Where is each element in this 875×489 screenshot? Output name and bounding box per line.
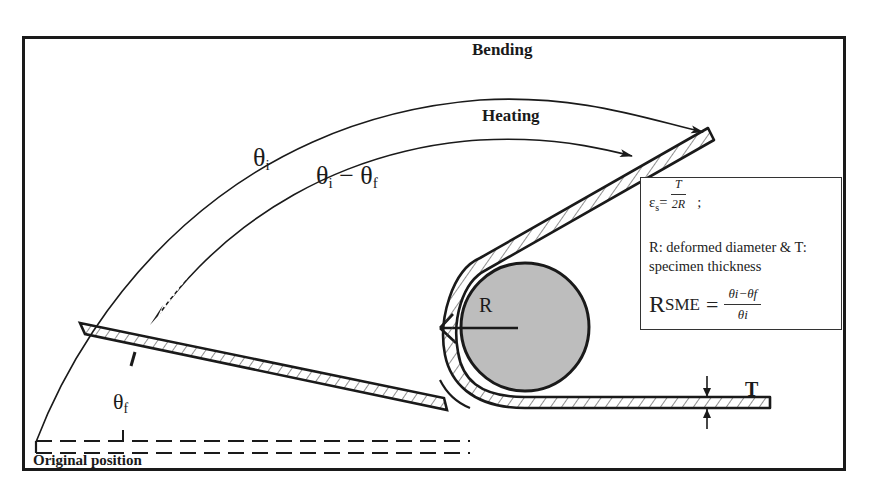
bending-label: Bending [472, 40, 532, 60]
heating-label: Heating [482, 106, 540, 126]
recovered-strip [80, 323, 447, 410]
radius-label: R [479, 294, 492, 317]
theta-f-label: θf [113, 389, 128, 417]
strain-formula: εs= T 2R ; [649, 186, 701, 221]
rsme-formula: RSME = θi−θf θi [649, 286, 761, 323]
thickness-label: T [745, 378, 758, 401]
variable-note: R: deformed diameter & T: specimen thick… [649, 238, 807, 276]
original-position-label: Original position [33, 452, 142, 469]
rsme-fraction: θi−θf θi [724, 286, 761, 323]
theta-i-minus-theta-f-label: θi − θf [316, 161, 378, 192]
strain-fraction: T 2R [671, 177, 686, 212]
formula-box: εs= T 2R ; R: deformed diameter & T: spe… [640, 177, 842, 330]
theta-i-label: θi [253, 143, 270, 174]
